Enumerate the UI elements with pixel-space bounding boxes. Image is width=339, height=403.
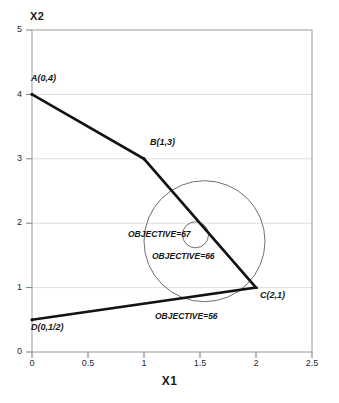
- vertex-marker-C: [254, 286, 257, 289]
- x-tick-label-3: 1.5: [185, 358, 215, 368]
- y-tick-label-1: 1: [2, 282, 22, 292]
- objective-annotation-66: OBJECTIVE=66: [152, 251, 215, 261]
- y-axis-title: X2: [30, 10, 44, 22]
- y-tick-label-4: 4: [2, 89, 22, 99]
- vertex-label-B: B(1,3): [150, 137, 175, 147]
- y-tick-label-0: 0: [2, 346, 22, 356]
- vertex-marker-A: [30, 93, 33, 96]
- x-tick-label-2: 1: [129, 358, 159, 368]
- objective-contour-56-circle: [144, 181, 265, 302]
- y-tick-label-3: 3: [2, 153, 22, 163]
- x-tick-label-0: 0: [17, 358, 47, 368]
- vertex-marker-D: [30, 318, 33, 321]
- x-axis-title: X1: [0, 374, 339, 388]
- y-tick-label-5: 5: [2, 24, 22, 34]
- x-tick-label-5: 2.5: [297, 358, 327, 368]
- chart-figure: X2 X1 0 0.5 1 1.5 2 2.5 0 1 2 3 4 5 A(0,…: [0, 0, 339, 403]
- caption-strip: [0, 394, 339, 403]
- plot-canvas: [0, 0, 339, 403]
- vertex-label-C: C(2,1): [260, 290, 285, 300]
- objective-annotation-56: OBJECTIVE=56: [155, 311, 218, 321]
- x-tick-label-1: 0.5: [73, 358, 103, 368]
- y-tick-label-2: 2: [2, 217, 22, 227]
- vertex-marker-B: [142, 157, 145, 160]
- vertex-label-D: D(0,1/2): [31, 322, 64, 332]
- x-tick-label-4: 2: [241, 358, 271, 368]
- objective-annotation-67: OBJECTIVE=67: [128, 229, 191, 239]
- feasible-region-boundary: [32, 94, 256, 319]
- vertex-label-A: A(0,4): [31, 73, 56, 83]
